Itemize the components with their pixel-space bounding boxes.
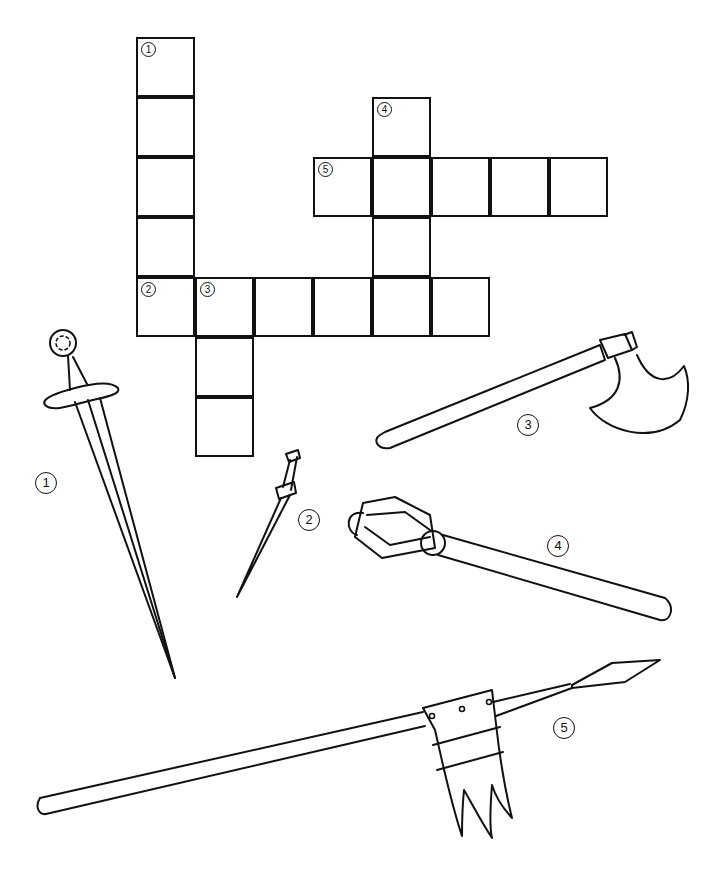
picture-label: 5: [553, 717, 575, 739]
picture-label: 3: [517, 414, 539, 436]
mace-icon: [349, 497, 671, 620]
weapon-illustrations: [0, 0, 725, 877]
crossword-puzzle: 12345: [0, 0, 725, 877]
picture-label: 4: [547, 535, 569, 557]
picture-label: 1: [35, 472, 57, 494]
dagger-icon: [237, 450, 300, 597]
picture-label: 2: [298, 509, 320, 531]
lance-icon: [38, 660, 660, 838]
sword-icon: [44, 330, 175, 678]
